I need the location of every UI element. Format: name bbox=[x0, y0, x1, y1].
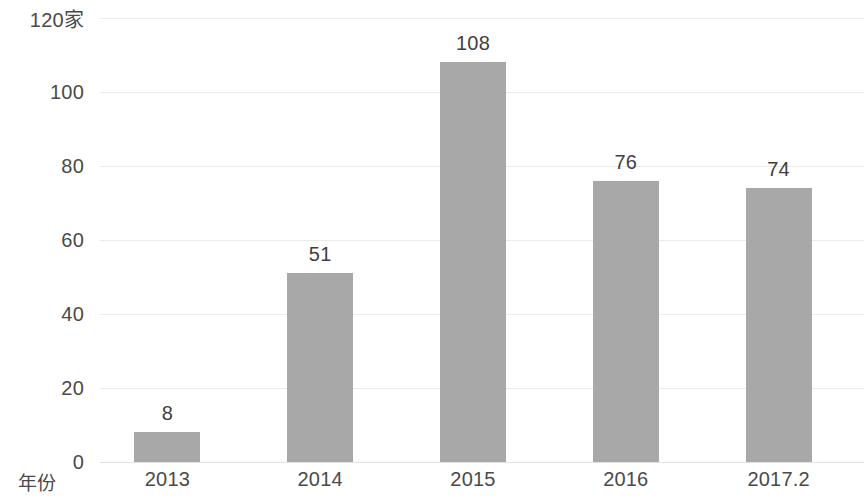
bar-value-labels: 8511087674 bbox=[0, 0, 864, 499]
bar-value-label: 108 bbox=[456, 32, 490, 55]
bar-value-label: 76 bbox=[614, 151, 637, 174]
bar-value-label: 8 bbox=[162, 402, 173, 425]
x-tick-label: 2016 bbox=[603, 468, 648, 491]
bar-chart: 020406080100120家 8511087674 年份 201320142… bbox=[0, 0, 864, 499]
x-tick-label: 2013 bbox=[145, 468, 190, 491]
bar-value-label: 74 bbox=[767, 158, 790, 181]
x-tick-label: 2014 bbox=[298, 468, 343, 491]
x-axis-title: 年份 bbox=[18, 468, 56, 495]
bar-value-label: 51 bbox=[309, 243, 332, 266]
x-tick-label: 2015 bbox=[450, 468, 495, 491]
x-tick-label: 2017.2 bbox=[747, 468, 809, 491]
x-axis: 年份 20132014201520162017.2 bbox=[0, 468, 864, 499]
